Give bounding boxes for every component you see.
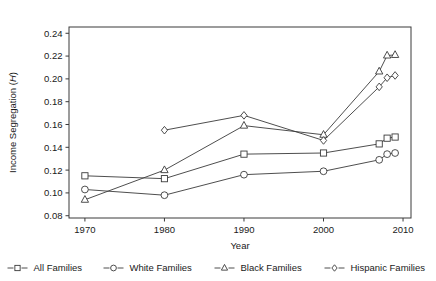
x-tick-label: 2000	[313, 224, 334, 235]
marker-square	[392, 134, 398, 140]
y-tick-label: 0.24	[44, 28, 63, 39]
series-line	[85, 137, 395, 179]
y-tick-label: 0.16	[44, 119, 63, 130]
legend-label: All Families	[34, 262, 83, 273]
legend-label: Black Families	[241, 262, 302, 273]
y-axis-title-close: )	[7, 72, 18, 75]
marker-diamond	[392, 72, 398, 80]
legend-label: White Families	[130, 262, 193, 273]
marker-square	[241, 151, 247, 157]
y-tick-label: 0.22	[44, 50, 63, 61]
chart-figure: 0.080.100.120.140.160.180.200.220.241970…	[0, 0, 436, 281]
marker-circle	[82, 186, 89, 193]
marker-square	[384, 135, 390, 141]
marker-circle	[376, 156, 383, 163]
x-axis-title: Year	[230, 240, 249, 251]
legend-item-black-families[interactable]: Black Families	[215, 262, 302, 273]
legend-label: Hispanic Families	[351, 262, 426, 273]
y-tick-label: 0.18	[44, 96, 63, 107]
x-tick-label: 1980	[154, 224, 175, 235]
series-line	[85, 153, 395, 195]
series-all-families	[82, 134, 398, 182]
legend-item-white-families[interactable]: White Families	[104, 262, 193, 273]
marker-triangle	[383, 51, 390, 58]
income-segregation-line-chart: 0.080.100.120.140.160.180.200.220.241970…	[0, 0, 436, 281]
legend-item-all-families[interactable]: All Families	[8, 262, 83, 273]
marker-circle	[161, 192, 168, 199]
series-black-families	[81, 51, 399, 203]
marker-circle	[111, 265, 117, 271]
y-tick-label: 0.20	[44, 73, 63, 84]
x-tick-label: 2010	[392, 224, 413, 235]
y-tick-label: 0.10	[44, 187, 63, 198]
series-white-families	[82, 150, 399, 199]
marker-triangle	[161, 166, 168, 173]
marker-square	[161, 176, 167, 182]
marker-triangle	[376, 67, 383, 74]
marker-square	[15, 265, 20, 270]
series-line	[164, 75, 395, 140]
marker-diamond	[332, 265, 337, 271]
series-hispanic-families	[161, 72, 398, 145]
series-line	[85, 55, 395, 200]
marker-triangle	[240, 121, 247, 128]
y-tick-label: 0.14	[44, 142, 63, 153]
marker-diamond	[241, 112, 247, 120]
legend-item-hispanic-families[interactable]: Hispanic Families	[325, 262, 426, 273]
marker-square	[82, 173, 88, 179]
x-tick-label: 1970	[74, 224, 95, 235]
marker-square	[320, 150, 326, 156]
marker-circle	[320, 168, 327, 175]
marker-triangle	[221, 264, 227, 270]
marker-circle	[384, 151, 391, 158]
y-axis-title-text: Income Segregation (	[7, 81, 18, 173]
y-tick-label: 0.12	[44, 165, 63, 176]
marker-triangle	[391, 51, 398, 58]
marker-circle	[392, 150, 399, 157]
plot-frame	[69, 27, 411, 218]
marker-diamond	[161, 126, 167, 134]
marker-circle	[241, 171, 248, 178]
y-tick-label: 0.08	[44, 210, 63, 221]
x-tick-label: 1990	[233, 224, 254, 235]
marker-square	[376, 141, 382, 147]
y-axis-title: Income Segregation (H)	[7, 72, 18, 173]
